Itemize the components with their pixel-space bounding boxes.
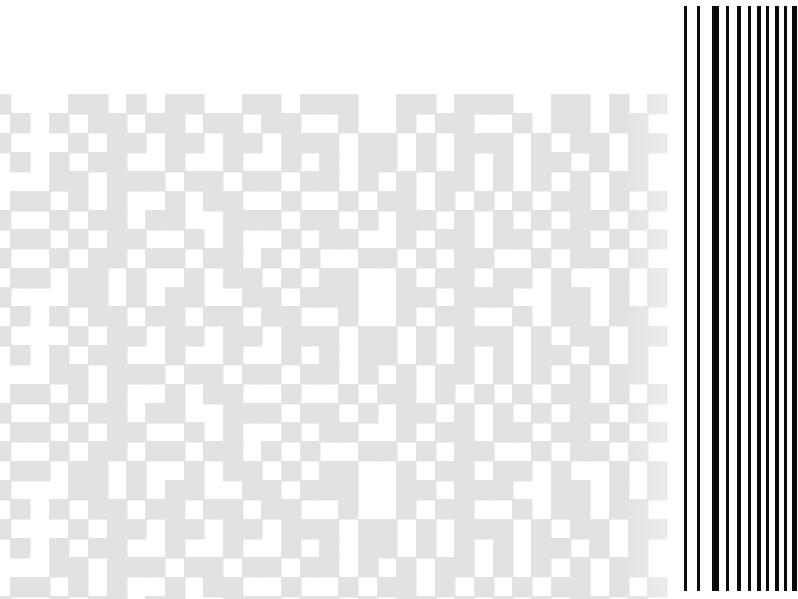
barcode-bar — [757, 6, 761, 591]
page-canvas — [0, 0, 798, 599]
barcode-bar — [748, 6, 751, 591]
barcode-bar — [775, 6, 779, 591]
barcode-bar — [697, 6, 700, 591]
barcode-bar — [726, 6, 729, 591]
barcode-bar — [792, 6, 797, 591]
barcode-bar — [712, 6, 719, 591]
vertical-barcode — [0, 0, 798, 599]
barcode-bar — [684, 6, 687, 591]
barcode-bar — [737, 6, 741, 591]
barcode-bar — [766, 6, 769, 591]
barcode-bar — [784, 6, 787, 591]
